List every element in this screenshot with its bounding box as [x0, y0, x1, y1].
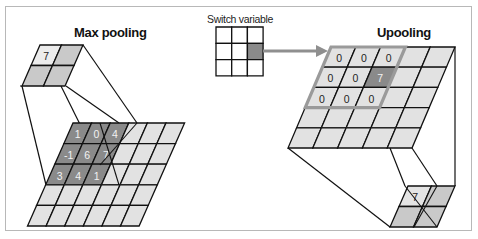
unpooling-input-grid: 7: [390, 186, 455, 227]
unpool-output-value: 0: [319, 93, 325, 105]
switch-cell: [232, 27, 248, 43]
unpooling-output-grid: 000007000: [288, 47, 455, 148]
switch-variable-grid: [216, 27, 263, 76]
max-input-value: 6: [84, 149, 90, 161]
max-input-value: 1: [94, 170, 100, 182]
unpool-output-value: 0: [369, 93, 375, 105]
max-input-value: -1: [64, 149, 73, 161]
unpool-output-value: 0: [344, 93, 350, 105]
switch-cell: [216, 27, 232, 43]
max-input-value: 1: [75, 128, 81, 140]
unpool-output-value: 0: [361, 52, 367, 64]
switch-cell: [216, 60, 232, 76]
max-output-value: 7: [43, 50, 49, 62]
switch-cell: [232, 60, 248, 76]
max-input-value: 4: [112, 128, 118, 140]
unpool-output-value: 0: [352, 72, 358, 84]
switch-cell: [247, 27, 263, 43]
unpool-output-value: 0: [328, 72, 334, 84]
max-pooling-input-grid: 104-167341: [28, 123, 185, 226]
max-input-value: 3: [57, 170, 63, 182]
unpool-output-value: 0: [386, 52, 392, 64]
switch-cell: [247, 60, 263, 76]
switch-arrow-icon: [263, 45, 328, 57]
unpool-output-value: 7: [377, 72, 383, 84]
pooling-diagram: 104-167341 7 000007000 7: [0, 0, 478, 239]
max-input-value: 4: [75, 170, 81, 182]
max-input-value: 0: [93, 128, 99, 140]
max-pooling-output-grid: 7: [22, 45, 83, 86]
unpool-output-value: 0: [336, 52, 342, 64]
switch-cell: [232, 43, 248, 59]
switch-cell: [247, 43, 263, 59]
switch-cell: [216, 43, 232, 59]
